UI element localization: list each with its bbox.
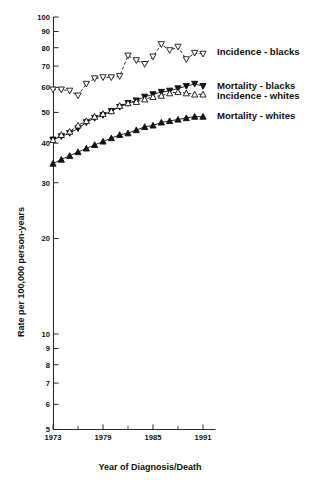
- series-line: [53, 117, 203, 164]
- series-label-1: Incidence - blacks: [217, 46, 300, 57]
- y-tick-label: 70: [42, 62, 50, 71]
- data-point-marker: [150, 122, 156, 128]
- data-point-marker: [142, 62, 148, 68]
- data-point-marker: [200, 51, 206, 57]
- data-point-marker: [58, 156, 64, 162]
- y-tick-label: 90: [42, 27, 50, 36]
- data-point-marker: [100, 138, 106, 144]
- data-point-marker: [75, 149, 81, 155]
- data-point-marker: [83, 81, 89, 87]
- data-point-marker: [167, 48, 173, 54]
- series-label-4: Mortality - whites: [217, 110, 295, 121]
- x-tick-label: 1991: [195, 433, 213, 442]
- y-tick-label: 7: [46, 379, 50, 388]
- data-point-marker: [92, 76, 98, 82]
- x-tick-label: 1979: [95, 433, 112, 442]
- y-tick-label: 80: [42, 44, 50, 53]
- data-point-marker: [67, 153, 73, 159]
- data-point-marker: [183, 57, 189, 63]
- x-axis: 1973197919851991: [45, 424, 216, 442]
- data-point-marker: [133, 127, 139, 133]
- data-point-marker: [125, 53, 131, 59]
- y-axis-title: Rate per 100,000 person-years: [16, 207, 26, 337]
- data-point-marker: [175, 44, 181, 50]
- y-tick-label: 50: [42, 108, 50, 117]
- series-1: [50, 42, 206, 99]
- data-point-marker: [92, 142, 98, 148]
- series-label-2: Mortality - blacks: [217, 80, 295, 91]
- y-tick-label: 10: [42, 330, 50, 339]
- data-point-marker: [142, 96, 148, 102]
- x-tick-label: 1973: [45, 433, 62, 442]
- data-point-marker: [75, 93, 81, 99]
- y-tick-label: 8: [46, 361, 50, 370]
- data-point-marker: [50, 160, 56, 166]
- data-point-marker: [175, 89, 181, 95]
- data-series-layer: [50, 42, 206, 166]
- series-label-3: Incidence - whites: [217, 90, 300, 101]
- data-point-marker: [125, 130, 131, 136]
- data-point-marker: [200, 84, 206, 90]
- y-axis: 10090807060504030201098765: [37, 13, 58, 434]
- rate-trend-line-chart: 10090807060504030201098765 1973197919851…: [0, 0, 317, 480]
- data-point-marker: [83, 145, 89, 151]
- y-tick-label: 40: [42, 139, 50, 148]
- data-point-marker: [192, 91, 198, 97]
- data-point-marker: [100, 75, 106, 81]
- y-tick-label: 100: [37, 13, 50, 22]
- series-labels-layer: Incidence - blacksMortality - blacksInci…: [217, 46, 300, 121]
- y-tick-label: 9: [46, 344, 50, 353]
- x-tick-label: 1985: [145, 433, 163, 442]
- y-tick-label: 30: [42, 179, 50, 188]
- data-point-marker: [75, 122, 81, 128]
- y-tick-label: 6: [46, 400, 50, 409]
- chart-figure: 10090807060504030201098765 1973197919851…: [0, 0, 317, 480]
- data-point-marker: [108, 135, 114, 141]
- axis-titles-layer: Year of Diagnosis/DeathRate per 100,000 …: [16, 207, 202, 472]
- data-point-marker: [67, 88, 73, 94]
- data-point-marker: [158, 42, 164, 48]
- y-tick-label: 20: [42, 234, 50, 243]
- x-axis-title: Year of Diagnosis/Death: [98, 462, 201, 472]
- y-tick-label: 60: [42, 83, 50, 92]
- data-point-marker: [133, 58, 139, 64]
- series-4: [50, 114, 206, 167]
